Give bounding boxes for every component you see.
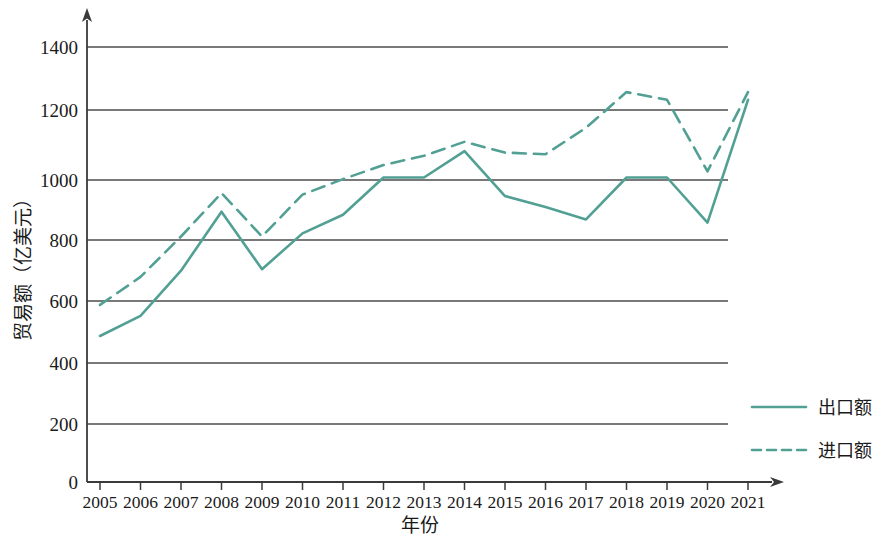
- y-tick-label: 1000: [40, 170, 78, 191]
- x-tick-label: 2015: [488, 492, 523, 512]
- x-tick-label: 2005: [83, 492, 118, 512]
- x-tick-labels: 2005200620072008200920102011201220132014…: [83, 492, 766, 512]
- x-tick-label: 2010: [285, 492, 320, 512]
- x-tick-label: 2020: [690, 492, 725, 512]
- x-tick-label: 2007: [164, 492, 199, 512]
- x-tick-label: 2019: [650, 492, 685, 512]
- legend-label-import: 进口额: [818, 440, 872, 461]
- y-tick-label: 1400: [40, 37, 78, 58]
- legend-label-export: 出口额: [818, 397, 872, 418]
- y-tick-label: 200: [50, 414, 79, 435]
- x-tick-label: 2016: [528, 492, 563, 512]
- trade-volume-line-chart: 1400 1200 1000 800 600 400 200 0 贸易额（亿美元…: [0, 0, 881, 541]
- x-tick-label: 2018: [609, 492, 644, 512]
- y-tick-label: 0: [69, 472, 79, 493]
- x-tick-label: 2011: [326, 492, 360, 512]
- x-tick-label: 2021: [731, 492, 766, 512]
- y-tick-label: 1200: [40, 100, 78, 121]
- y-tick-label: 800: [50, 230, 79, 251]
- x-tick-label: 2017: [569, 492, 604, 512]
- y-tick-label: 600: [50, 291, 79, 312]
- x-tick-label: 2009: [245, 492, 280, 512]
- x-tick-label: 2008: [204, 492, 239, 512]
- x-axis-title: 年份: [401, 514, 439, 536]
- y-axis-title: 贸易额（亿美元）: [12, 189, 34, 341]
- y-tick-label: 400: [50, 353, 79, 374]
- x-tick-label: 2013: [407, 492, 442, 512]
- x-tick-label: 2006: [123, 492, 158, 512]
- chart-background: [0, 0, 881, 541]
- x-tick-label: 2014: [447, 492, 482, 512]
- x-tick-label: 2012: [366, 492, 401, 512]
